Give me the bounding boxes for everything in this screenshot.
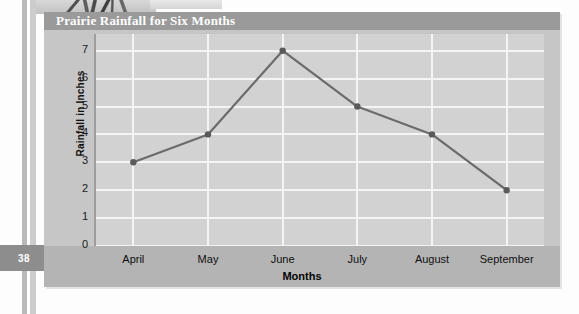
data-point-marker [130, 159, 136, 165]
data-point-marker [205, 131, 211, 137]
rainfall-polyline [133, 51, 506, 190]
scanned-textbook-page: 38 Prairie Rainfall for Six Months Rainf… [0, 0, 579, 314]
y-axis-tick-label: 0 [64, 238, 88, 250]
data-point-marker [429, 131, 435, 137]
y-axis-tick-label: 1 [64, 210, 88, 222]
chart-figure: Prairie Rainfall for Six Months Rainfall… [44, 12, 560, 287]
photo-edge-fragment [150, 0, 222, 9]
y-axis-tick-label: 5 [64, 99, 88, 111]
x-axis-title: Months [44, 270, 560, 282]
rainfall-line-series [96, 34, 544, 246]
page-number: 38 [0, 245, 48, 271]
data-point-marker [354, 103, 360, 109]
y-axis-tick-label: 6 [64, 71, 88, 83]
chart-title: Prairie Rainfall for Six Months [56, 13, 235, 29]
y-axis-tick-label: 2 [64, 182, 88, 194]
y-axis-tick-label: 3 [64, 154, 88, 166]
data-point-marker [279, 48, 285, 54]
data-point-marker [503, 187, 509, 193]
y-axis-tick-label: 4 [64, 126, 88, 138]
y-axis-tick-label: 7 [64, 43, 88, 55]
x-axis-tick-label: September [462, 253, 552, 265]
